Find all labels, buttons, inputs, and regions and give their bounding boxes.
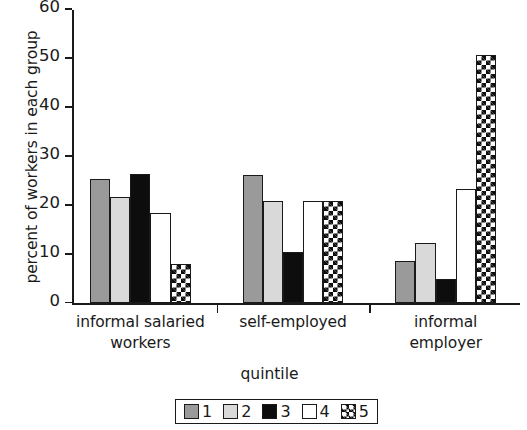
x-axis-group-label: informalemployer [365, 312, 526, 354]
y-axis-tick-label: 60 [39, 0, 60, 17]
legend-label: 2 [241, 403, 251, 420]
y-axis-tick: 30 [65, 155, 72, 157]
x-axis-group-label: self-employed [213, 312, 374, 333]
bar [171, 264, 191, 303]
bar [90, 179, 110, 304]
legend-swatch [262, 404, 277, 419]
x-axis-group-label: informal salariedworkers [60, 312, 221, 354]
bar [436, 279, 456, 303]
bar [456, 189, 476, 303]
y-axis-tick: 0 [65, 302, 72, 304]
legend-label: 5 [359, 403, 369, 420]
y-axis-tick: 40 [65, 106, 72, 108]
y-axis-tick: 60 [65, 8, 72, 10]
y-axis-line [72, 10, 74, 305]
legend-item: 4 [302, 403, 330, 420]
y-axis-tick-label: 20 [39, 193, 60, 213]
x-axis-line [72, 303, 520, 305]
legend-label: 3 [280, 403, 290, 420]
bar [283, 252, 303, 304]
bar [110, 197, 130, 303]
bar [263, 201, 283, 304]
x-axis-group-label-line: informal [365, 312, 526, 333]
legend-item: 5 [341, 403, 369, 420]
bar [303, 201, 323, 304]
bar [395, 261, 415, 303]
x-axis-group-label-line: employer [365, 333, 526, 354]
legend: 12345 [175, 399, 378, 424]
legend-item: 1 [184, 403, 212, 420]
y-axis-tick-label: 40 [39, 95, 60, 115]
bar-chart: percent of workers in each group 0102030… [0, 0, 527, 430]
x-axis-group-label-line: workers [60, 333, 221, 354]
plot-area: 0102030405060 [72, 10, 520, 305]
legend-item: 3 [262, 403, 290, 420]
y-axis-tick: 50 [65, 57, 72, 59]
y-axis-tick: 20 [65, 204, 72, 206]
bar [150, 213, 170, 303]
bar [243, 175, 263, 303]
bar [323, 201, 343, 304]
legend-label: 4 [320, 403, 330, 420]
x-axis-title: quintile [0, 365, 527, 383]
legend-swatch [341, 404, 356, 419]
y-axis-tick-label: 0 [50, 291, 61, 311]
y-axis-tick-label: 50 [39, 46, 60, 66]
legend-swatch [223, 404, 238, 419]
legend-item: 2 [223, 403, 251, 420]
y-axis-tick-label: 30 [39, 144, 60, 164]
bar [130, 174, 150, 304]
y-axis-tick-label: 10 [39, 242, 60, 262]
x-axis-title-text: quintile [240, 365, 298, 383]
legend-swatch [302, 404, 317, 419]
bar [415, 243, 435, 303]
y-axis-tick: 10 [65, 253, 72, 255]
bar [476, 55, 496, 303]
legend-label: 1 [202, 403, 212, 420]
x-axis-group-label-line: self-employed [213, 312, 374, 333]
legend-swatch [184, 404, 199, 419]
x-axis-group-label-line: informal salaried [60, 312, 221, 333]
